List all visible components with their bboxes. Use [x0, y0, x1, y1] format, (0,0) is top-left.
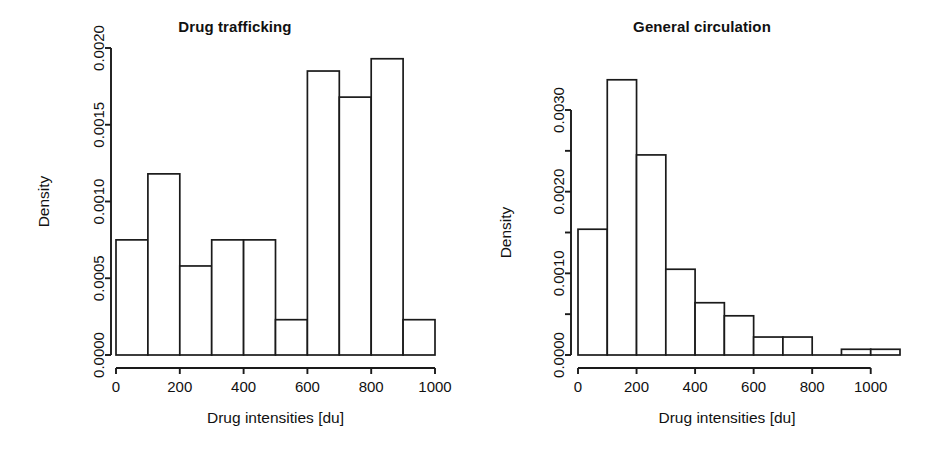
x-axis-title: Drug intensities [du] [207, 409, 344, 426]
x-axis-tick-label: 1000 [418, 378, 451, 395]
histogram-bar [841, 349, 870, 355]
histogram-figure: Drug trafficking 0.00000.00050.00100.001… [0, 0, 937, 459]
histogram-bar [666, 269, 695, 355]
histogram-bar [783, 337, 812, 355]
y-axis-tick-label: 0.0000 [550, 332, 567, 378]
x-axis-tick-label: 800 [359, 378, 384, 395]
y-axis-title: Density [35, 175, 52, 227]
histogram-bar [578, 229, 607, 355]
y-axis-tick-label: 0.0010 [550, 250, 567, 296]
histogram-bar [212, 240, 244, 355]
plot-area-drug-trafficking: 0.00000.00050.00100.00150.00200200400600… [0, 0, 470, 459]
histogram-bar [754, 337, 783, 355]
histogram-bar [276, 320, 308, 355]
y-axis-tick-label: 0.0005 [90, 255, 107, 301]
y-axis-tick-label: 0.0020 [90, 25, 107, 71]
x-axis-tick-label: 400 [231, 378, 256, 395]
histogram-bar [871, 349, 900, 355]
histogram-bar [403, 320, 435, 355]
histogram-bar [724, 316, 753, 355]
histogram-bar [637, 155, 666, 355]
y-axis-tick-label: 0.0030 [550, 87, 567, 133]
histogram-bar [371, 59, 403, 355]
x-axis-tick-label: 800 [800, 378, 825, 395]
y-axis-title: Density [497, 206, 514, 258]
x-axis-tick-label: 200 [167, 378, 192, 395]
x-axis-tick-label: 600 [295, 378, 320, 395]
histogram-bar [339, 97, 371, 355]
x-axis-tick-label: 400 [683, 378, 708, 395]
panel-general-circulation: General circulation 0.00000.00100.00200.… [467, 0, 937, 459]
y-axis-tick-label: 0.0020 [550, 169, 567, 215]
x-axis: 02004006008001000 [112, 368, 452, 395]
y-axis: 0.00000.00100.00200.0030 [550, 87, 571, 378]
x-axis-tick-label: 0 [112, 378, 120, 395]
x-axis-tick-label: 1000 [854, 378, 887, 395]
y-axis-tick-label: 0.0010 [90, 179, 107, 225]
y-axis-tick-label: 0.0015 [90, 102, 107, 148]
x-axis-tick-label: 200 [624, 378, 649, 395]
histogram-bar [307, 71, 339, 355]
histogram-bars [116, 59, 435, 355]
x-axis-tick-label: 600 [741, 378, 766, 395]
histogram-bar [148, 174, 180, 355]
histogram-bar [180, 266, 212, 355]
histogram-bar [116, 240, 148, 355]
x-axis-tick-label: 0 [574, 378, 582, 395]
histogram-bar [607, 80, 636, 355]
histogram-bar [695, 303, 724, 355]
plot-area-general-circulation: 0.00000.00100.00200.00300200400600800100… [467, 0, 937, 459]
histogram-bars [578, 80, 900, 355]
y-axis: 0.00000.00050.00100.00150.0020 [90, 25, 111, 378]
histogram-bar [244, 240, 276, 355]
x-axis-title: Drug intensities [du] [659, 409, 796, 426]
panel-drug-trafficking: Drug trafficking 0.00000.00050.00100.001… [0, 0, 470, 459]
x-axis: 02004006008001000 [574, 368, 888, 395]
y-axis-tick-label: 0.0000 [90, 332, 107, 378]
